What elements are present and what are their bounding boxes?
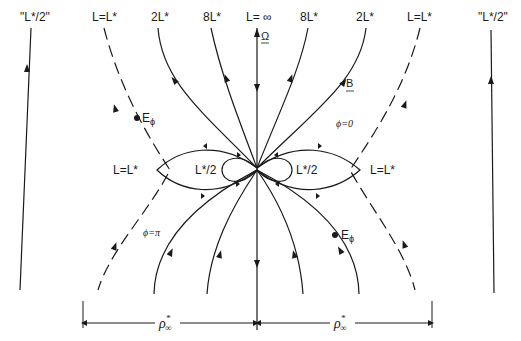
arrow-icon xyxy=(401,99,409,109)
mid-left-separatrix-label: L=L* xyxy=(113,163,138,177)
right-8L-field-line-upper xyxy=(257,28,308,168)
right-separatrix-line xyxy=(350,28,420,290)
inner-left-loop-label: L*/2 xyxy=(195,163,217,177)
label-far-left-L-half: "L*/2" xyxy=(20,10,50,24)
arrow-icon xyxy=(203,143,207,149)
label-left-8L: 8L* xyxy=(203,10,221,24)
arrow-icon xyxy=(316,193,320,199)
label-right-8L: 8L* xyxy=(300,10,318,24)
efield-out-of-page-icon xyxy=(332,232,338,238)
far-right-field-line xyxy=(491,30,494,293)
efield-label-upper-left: Eϕ xyxy=(142,111,155,127)
efield-out-of-page-icon xyxy=(134,115,140,121)
far-left-field-line xyxy=(20,28,31,290)
left-8L-field-line-upper xyxy=(211,28,257,168)
label-right-separatrix: L=L* xyxy=(407,10,432,24)
arrow-icon xyxy=(254,260,260,268)
arrow-icon xyxy=(400,239,408,249)
efield-label-lower-right: Eϕ xyxy=(341,228,354,244)
label-left-separatrix: L=L* xyxy=(92,10,117,24)
left-separatrix-line xyxy=(98,28,170,290)
label-far-right-L-half: "L*/2" xyxy=(478,10,508,24)
right-2L-field-line-upper xyxy=(257,28,366,168)
label-right-2L: 2L* xyxy=(356,10,374,24)
arrow-icon xyxy=(254,84,260,92)
arrow-icon xyxy=(335,245,344,255)
omega-arrow-icon xyxy=(254,28,260,37)
left-2L-field-line-upper xyxy=(158,28,257,168)
arrow-icon xyxy=(111,103,119,112)
rho-infinity-right: ρ*∞ xyxy=(333,313,347,333)
arrow-icon xyxy=(201,193,205,199)
magnetosphere-diagram: "L*/2" L=L* 2L* 8L* L= ∞ 8L* 2L* L=L* "L… xyxy=(0,0,521,341)
inner-right-loop-label: L*/2 xyxy=(296,163,318,177)
label-left-2L: 2L* xyxy=(151,10,169,24)
omega-vector-label: Ω xyxy=(261,30,269,42)
B-vector-label: B xyxy=(346,77,353,89)
arrow-icon xyxy=(318,143,322,149)
rho-infinity-left: ρ*∞ xyxy=(158,313,172,333)
label-axis-L-infinity: L= ∞ xyxy=(246,10,272,24)
arrow-icon xyxy=(488,76,494,84)
phi-zero-label: ϕ=0 xyxy=(336,118,353,129)
phi-pi-label: ϕ=π xyxy=(143,227,161,238)
mid-right-separatrix-label: L=L* xyxy=(370,163,395,177)
left-2L-field-line-lower xyxy=(154,170,257,294)
arrow-icon xyxy=(167,247,176,257)
arrow-icon xyxy=(216,249,224,258)
